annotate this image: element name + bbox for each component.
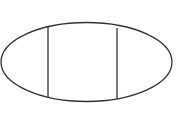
diagram-canvas	[0, 0, 180, 114]
outer-ellipse	[1, 23, 172, 102]
divided-ellipse-diagram	[0, 0, 180, 114]
